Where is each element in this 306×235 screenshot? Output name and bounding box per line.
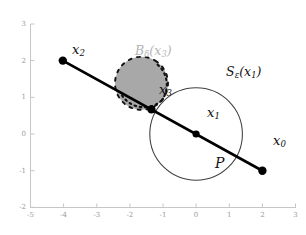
point-x3 xyxy=(147,105,155,113)
label-x1: x1 xyxy=(207,105,220,121)
point-x0 xyxy=(258,167,266,175)
label-x1-base: x xyxy=(207,105,214,120)
x-tick-label-1: -4 xyxy=(60,211,67,219)
plot-canvas xyxy=(0,0,306,235)
x-axis-ticks xyxy=(31,204,296,208)
label-x0: x0 xyxy=(273,133,286,149)
x-tick-label-7: 2 xyxy=(260,211,264,219)
y-tick-label-3: 3 xyxy=(22,20,26,28)
label-sphere-epsilon: Sε(x1) xyxy=(226,64,261,80)
label-ball-paren-close: ) xyxy=(167,43,172,58)
x-tick-label-2: -3 xyxy=(93,211,100,219)
point-x2 xyxy=(59,56,67,64)
y-tick-label-0: 0 xyxy=(22,130,26,138)
label-ball-base: B xyxy=(135,43,144,58)
label-path-P: P xyxy=(215,155,224,171)
y-tick-label-1: 1 xyxy=(22,93,26,101)
label-x3: x3 xyxy=(159,82,172,98)
x-tick-label-4: -1 xyxy=(160,211,167,219)
label-x2-base: x xyxy=(72,42,79,57)
label-sphere-paren-close: ) xyxy=(257,64,262,79)
y-tick-label-2: 2 xyxy=(22,57,26,65)
label-x1-sub: 1 xyxy=(215,111,220,121)
y-tick-label-minus1: -1 xyxy=(19,167,26,175)
label-ball-delta: Bδ(x3) xyxy=(135,43,172,59)
x-tick-label-0: -5 xyxy=(27,211,34,219)
x-tick-label-3: -2 xyxy=(126,211,133,219)
figure-container: -5 -4 -3 -2 -1 0 1 2 3 3 2 1 0 -1 -2 x2 … xyxy=(0,0,306,235)
label-sphere-base: S xyxy=(226,64,235,79)
x-tick-label-6: 1 xyxy=(227,211,231,219)
point-x1 xyxy=(193,130,200,137)
y-axis-ticks xyxy=(31,24,35,207)
y-tick-label-minus2: -2 xyxy=(19,203,26,211)
label-x3-sub: 3 xyxy=(167,88,172,98)
label-x2-sub: 2 xyxy=(80,48,85,58)
label-x0-base: x xyxy=(273,133,280,148)
label-x3-base: x xyxy=(159,82,166,97)
label-x2: x2 xyxy=(72,42,85,58)
x-tick-label-8: 3 xyxy=(293,211,297,219)
x-tick-label-5: 0 xyxy=(194,211,198,219)
label-x0-sub: 0 xyxy=(281,139,286,149)
